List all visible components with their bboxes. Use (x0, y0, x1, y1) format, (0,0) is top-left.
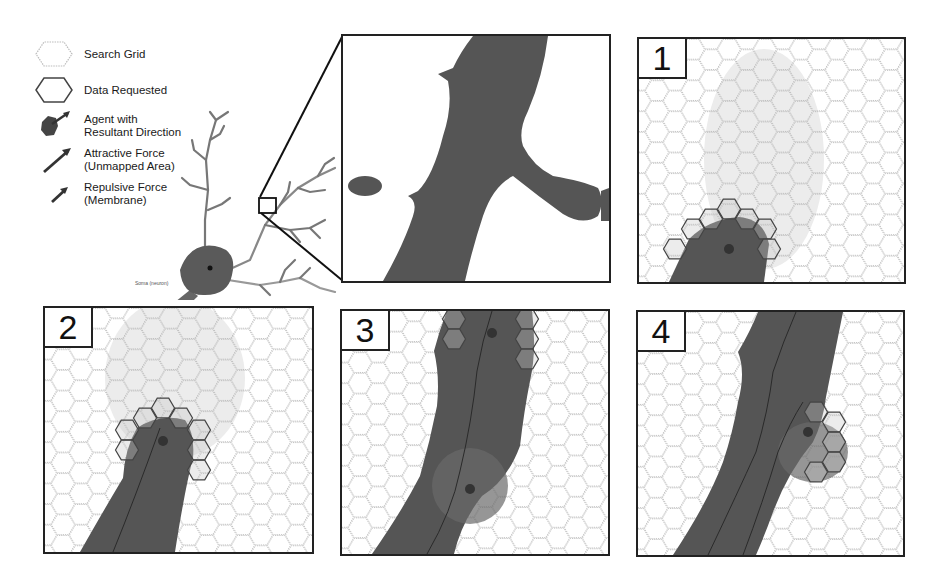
neuron-illustration: Soma (neuron) Agent Drop Location(s) (120, 110, 350, 300)
panel-number: 1 (639, 39, 687, 79)
step-panel-1: 1 (637, 37, 906, 284)
panel-number: 3 (342, 311, 390, 351)
hexagon-outline-light-icon (30, 36, 78, 72)
legend-label: Data Requested (84, 84, 167, 97)
long-arrow-icon (30, 142, 78, 178)
legend-item-search-grid: Search Grid (30, 36, 145, 72)
step-panel-2: 2 (43, 306, 314, 554)
legend-item-data-requested: Data Requested (30, 72, 167, 108)
panel-number: 2 (45, 308, 93, 348)
zoom-inset-panel (341, 34, 611, 283)
hexagon-outline-dark-icon (30, 72, 78, 108)
step-panel-4: 4 (636, 310, 905, 557)
step-panel-3: 3 (340, 309, 610, 556)
panel-number: 4 (638, 312, 686, 352)
dendrite-closeup (343, 36, 609, 281)
agent-with-arrow-icon (30, 108, 78, 144)
soma-label: Soma (neuron) (135, 280, 169, 286)
short-arrow-icon (30, 176, 78, 212)
legend-label: Search Grid (84, 48, 145, 61)
